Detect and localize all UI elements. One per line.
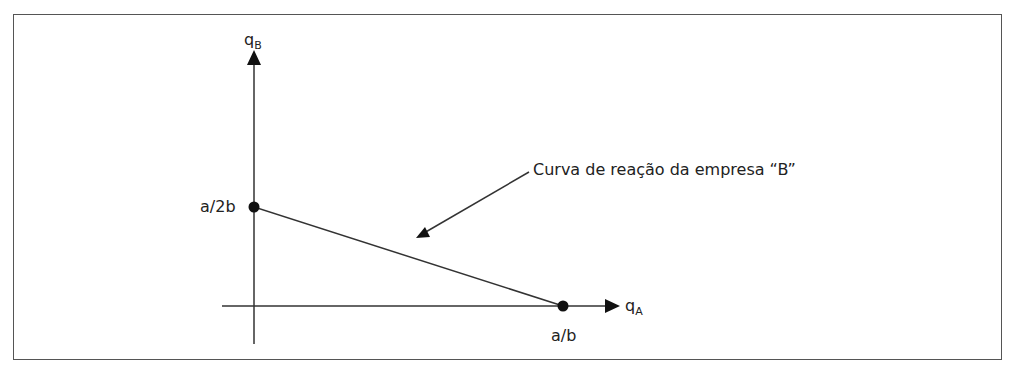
- x-axis-label: qA: [625, 296, 643, 315]
- diagram-canvas: [0, 0, 1013, 374]
- point-label-a-2b: a/2b: [200, 197, 236, 216]
- y-axis-label: qB: [244, 30, 262, 49]
- annotation-arrow-icon: [416, 227, 430, 238]
- reaction-curve: [254, 207, 563, 306]
- x-axis-arrow-icon: [605, 299, 620, 313]
- annotation-arrow-line: [424, 172, 529, 233]
- y-axis-arrow-icon: [247, 50, 261, 65]
- point-label-a-b: a/b: [551, 326, 576, 345]
- annotation-label: Curva de reação da empresa “B”: [533, 160, 796, 179]
- point-a-b: [558, 301, 569, 312]
- point-a-2b: [249, 202, 260, 213]
